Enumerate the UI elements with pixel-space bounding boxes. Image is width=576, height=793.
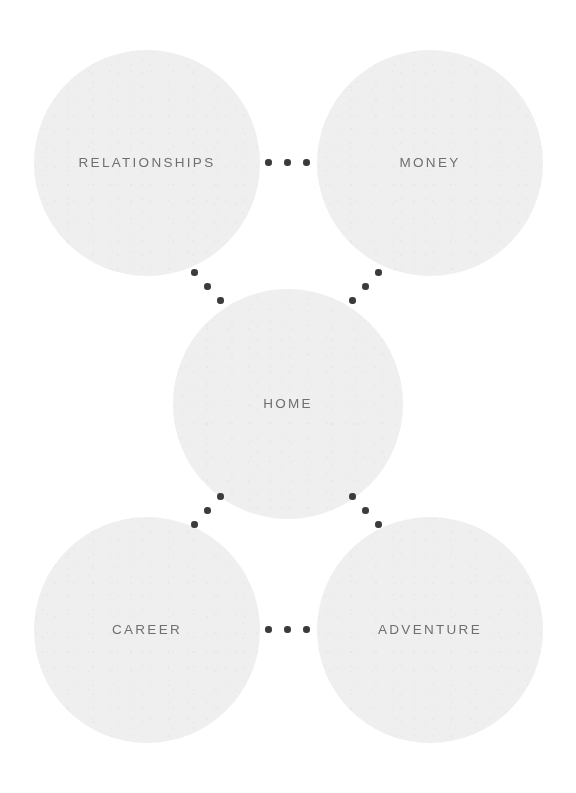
connector-dot <box>303 626 310 633</box>
diagram-canvas: RELATIONSHIPS MONEY HOME CAREER ADVENTUR… <box>0 0 576 793</box>
connector-dot <box>375 269 382 276</box>
connector-dot <box>217 493 224 500</box>
connector-home-adventure <box>349 493 385 529</box>
connector-dot <box>349 493 356 500</box>
connector-dot <box>303 159 310 166</box>
circle-node-money[interactable]: MONEY <box>317 50 543 276</box>
node-label-money: MONEY <box>399 156 460 170</box>
connector-dot <box>375 521 382 528</box>
node-label-adventure: ADVENTURE <box>378 623 482 637</box>
circle-node-relationships[interactable]: RELATIONSHIPS <box>34 50 260 276</box>
connector-dot <box>284 626 291 633</box>
connector-dot <box>191 521 198 528</box>
connector-dot <box>204 507 211 514</box>
connector-career-adventure <box>265 626 311 634</box>
connector-money-home <box>349 269 385 305</box>
connector-dot <box>217 297 224 304</box>
node-label-home: HOME <box>263 397 313 411</box>
node-label-career: CAREER <box>112 623 182 637</box>
circle-node-adventure[interactable]: ADVENTURE <box>317 517 543 743</box>
connector-dot <box>191 269 198 276</box>
connector-dot <box>362 283 369 290</box>
connector-dot <box>265 626 272 633</box>
connector-home-career <box>191 493 227 529</box>
connector-relationships-home <box>191 269 227 305</box>
connector-dot <box>362 507 369 514</box>
connector-relationships-money <box>265 159 311 167</box>
circle-node-home[interactable]: HOME <box>173 289 403 519</box>
node-label-relationships: RELATIONSHIPS <box>79 156 216 170</box>
connector-dot <box>204 283 211 290</box>
circle-node-career[interactable]: CAREER <box>34 517 260 743</box>
connector-dot <box>284 159 291 166</box>
connector-dot <box>265 159 272 166</box>
connector-dot <box>349 297 356 304</box>
